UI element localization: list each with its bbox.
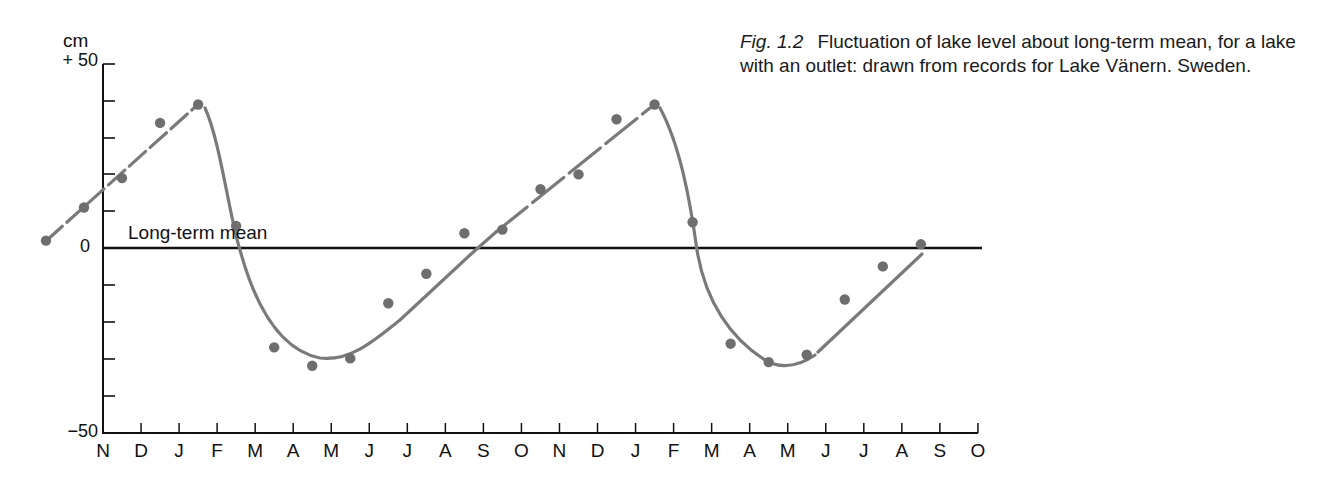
data-point xyxy=(459,228,469,238)
y-axis-unit: cm xyxy=(63,30,88,52)
data-point xyxy=(345,353,355,363)
x-tick-label: A xyxy=(735,440,765,462)
data-point xyxy=(878,261,888,271)
data-point xyxy=(421,269,431,279)
data-point xyxy=(916,239,926,249)
caption-text: Fluctuation of lake level about long-ter… xyxy=(740,31,1296,76)
data-point xyxy=(269,342,279,352)
x-tick-label: M xyxy=(316,440,346,462)
figure-caption: Fig. 1.2Fluctuation of lake level about … xyxy=(740,30,1320,78)
data-point xyxy=(497,224,507,234)
data-point xyxy=(155,118,165,128)
data-point xyxy=(193,99,203,109)
data-point xyxy=(79,202,89,212)
y-tick-label-zero: 0 xyxy=(30,236,90,257)
data-point xyxy=(117,173,127,183)
data-point xyxy=(649,99,659,109)
x-ticks xyxy=(141,423,978,433)
x-tick-label: M xyxy=(773,440,803,462)
data-point xyxy=(535,184,545,194)
x-tick-label: J xyxy=(392,440,422,462)
y-tick-label-bottom: −50 xyxy=(38,421,98,442)
figure-number: Fig. 1.2 xyxy=(740,31,803,52)
x-tick-label: N xyxy=(544,440,574,462)
data-point xyxy=(307,361,317,371)
data-point xyxy=(764,357,774,367)
x-tick-label: M xyxy=(697,440,727,462)
x-tick-label: N xyxy=(88,440,118,462)
x-tick-label: O xyxy=(963,440,993,462)
data-point xyxy=(383,298,393,308)
x-tick-label: F xyxy=(202,440,232,462)
data-point xyxy=(802,350,812,360)
data-point xyxy=(687,217,697,227)
data-point xyxy=(573,169,583,179)
x-tick-label: S xyxy=(468,440,498,462)
y-ticks xyxy=(103,64,115,396)
x-tick-label: J xyxy=(164,440,194,462)
x-tick-label: F xyxy=(659,440,689,462)
x-tick-label: J xyxy=(621,440,651,462)
data-point xyxy=(611,114,621,124)
x-tick-label: J xyxy=(811,440,841,462)
x-tick-label: O xyxy=(506,440,536,462)
data-point xyxy=(840,294,850,304)
y-tick-label-top: + 50 xyxy=(38,50,98,71)
long-term-mean-label: Long-term mean xyxy=(128,222,267,244)
x-tick-label: M xyxy=(240,440,270,462)
x-tick-label: D xyxy=(583,440,613,462)
x-tick-label: A xyxy=(278,440,308,462)
x-tick-label: J xyxy=(354,440,384,462)
x-tick-label: D xyxy=(126,440,156,462)
data-point xyxy=(725,338,735,348)
x-tick-label: S xyxy=(925,440,955,462)
x-tick-label: J xyxy=(849,440,879,462)
x-tick-label: A xyxy=(430,440,460,462)
x-tick-label: A xyxy=(887,440,917,462)
